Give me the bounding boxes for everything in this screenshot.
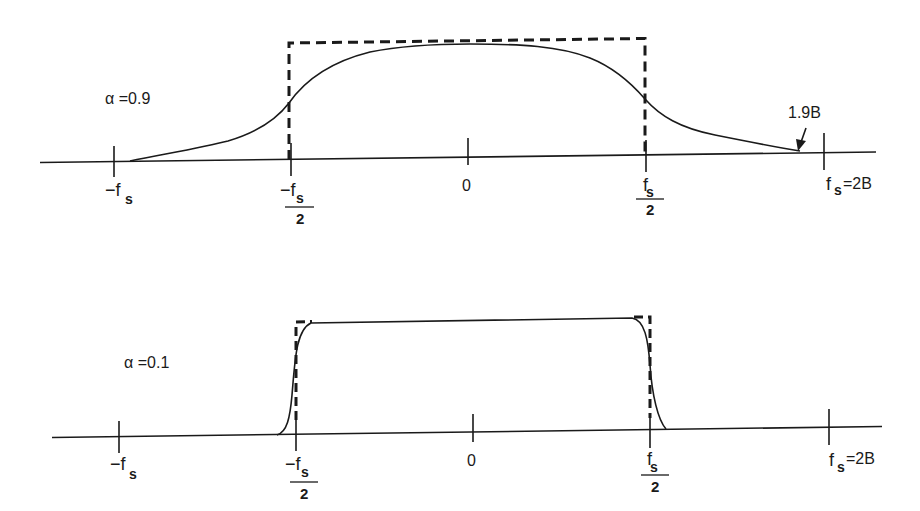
tick-label-pos-fs: f s =2B (826, 174, 872, 198)
svg-text:2: 2 (651, 478, 659, 495)
svg-text:−f: −f (280, 180, 297, 200)
svg-text:s: s (125, 191, 133, 207)
svg-text:−f: −f (285, 454, 302, 474)
svg-text:−f: −f (110, 454, 127, 474)
svg-text:s: s (296, 190, 304, 206)
svg-text:s: s (834, 182, 842, 198)
svg-text:=2B: =2B (843, 175, 872, 192)
svg-text:2: 2 (646, 201, 654, 218)
tick-label-neg-fs: −f s (110, 454, 137, 482)
panel-bottom: α =0.1 −f s −f s 2 0 f s 2 f s =2B (52, 317, 882, 502)
tick-label-pos-fs: f s =2B (829, 450, 875, 475)
tick-label-pos-half-fs: f s 2 (641, 449, 669, 495)
ideal-spectrum-dashed (289, 39, 645, 161)
svg-text:2: 2 (296, 210, 304, 227)
tick-label-neg-fs: −f s (105, 180, 133, 207)
tick-label-neg-half-fs: −f s 2 (285, 454, 318, 502)
svg-text:s: s (129, 466, 137, 482)
svg-text:s: s (646, 184, 654, 200)
alpha-label-top: α =0.9 (105, 90, 150, 107)
svg-text:s: s (301, 464, 309, 480)
raised-cosine-curve (277, 318, 666, 435)
frequency-axis (52, 427, 882, 438)
annotation-arrowhead-icon (796, 139, 806, 151)
svg-text:=2B: =2B (846, 450, 875, 467)
annotation-1-9b: 1.9B (788, 104, 821, 121)
figure-canvas: α =0.9 1.9B −f s −f s 2 0 f s 2 f s =2B (0, 0, 920, 511)
panel-top: α =0.9 1.9B −f s −f s 2 0 f s 2 f s =2B (40, 39, 876, 228)
tick-label-neg-half-fs: −f s 2 (280, 180, 314, 227)
svg-text:−f: −f (105, 180, 122, 200)
raised-cosine-curve (130, 44, 800, 161)
alpha-label-bottom: α =0.1 (124, 354, 169, 371)
tick-label-zero: 0 (462, 177, 471, 194)
tick-label-zero: 0 (467, 452, 476, 469)
tick-label-pos-half-fs: f s 2 (636, 175, 664, 218)
svg-text:2: 2 (300, 485, 308, 502)
svg-text:s: s (650, 459, 658, 475)
svg-text:f: f (826, 174, 832, 194)
svg-text:f: f (829, 450, 835, 470)
svg-text:s: s (837, 459, 845, 475)
ideal-spectrum-dashed (296, 317, 650, 420)
